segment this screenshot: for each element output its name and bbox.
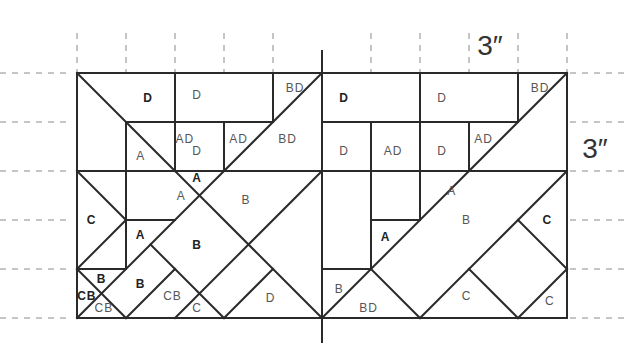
piece-label: CB [77, 289, 96, 303]
piece-label: C [545, 294, 555, 308]
piece-label: A [177, 189, 186, 203]
piece-label: C [192, 301, 202, 315]
piece-label: BD [278, 132, 297, 146]
piece-label: AD [474, 132, 493, 146]
seam-line [518, 220, 567, 269]
piece-label: BD [286, 81, 305, 95]
quilt-block-diagram: DDBDADADADBDAABCABBBCBCBCBCDDDBDDADDADAB… [0, 0, 627, 355]
piece-label: BD [531, 81, 550, 95]
piece-label: D [339, 144, 349, 158]
piece-label: A [447, 184, 456, 198]
piece-label: B [136, 277, 146, 291]
piece-label: D [192, 88, 202, 102]
piece-label: B [192, 238, 202, 252]
piece-label: A [381, 230, 391, 244]
seam-line [371, 269, 420, 318]
piece-label: B [335, 282, 344, 296]
piece-label: D [192, 144, 202, 158]
piece-label: D [437, 91, 447, 105]
piece-label: CB [163, 289, 182, 303]
piece-label: A [136, 149, 145, 163]
piece-label: C [462, 289, 472, 303]
piece-label: C [87, 213, 97, 227]
seam-line [322, 73, 567, 318]
piece-labels: DDBDADADADBDAABCABBBCBCBCBCDDDBDDADDADAB… [77, 81, 555, 316]
seam-line [77, 171, 126, 220]
piece-label: B [242, 193, 251, 207]
piece-label: BD [359, 301, 378, 315]
dimension-label: 3″ [477, 30, 503, 61]
piece-label: D [437, 144, 447, 158]
piece-label: C [543, 213, 553, 227]
piece-label: D [266, 291, 276, 305]
piece-label: AD [384, 144, 403, 158]
seam-line [77, 220, 126, 269]
piece-label: B [462, 213, 471, 227]
dashed-guide-lines [0, 33, 625, 318]
piece-label: D [339, 91, 349, 105]
piece-label: A [192, 171, 202, 185]
piece-label: D [143, 91, 153, 105]
piece-label: CB [95, 301, 114, 315]
dimension-label: 3″ [582, 133, 608, 164]
piece-label: A [136, 228, 146, 242]
piece-label: B [97, 272, 107, 286]
seam-line [469, 269, 518, 318]
seam-line [518, 269, 567, 318]
piece-label: AD [229, 132, 248, 146]
